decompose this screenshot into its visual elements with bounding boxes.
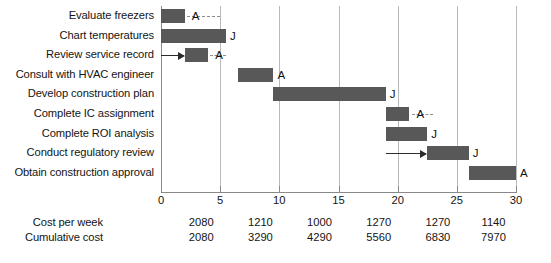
dependency-arrow <box>386 153 426 154</box>
task-label: Conduct regulatory review <box>27 143 154 163</box>
gantt-chart: Evaluate freezersChart temperaturesRevie… <box>0 0 551 263</box>
bar-end-marker: J <box>230 29 236 43</box>
gridline <box>398 6 399 192</box>
cost-cell: 2080 <box>189 216 214 228</box>
cost-table: Cost per week208012101000127012701140Cum… <box>0 216 551 250</box>
task-label: Obtain construction approval <box>14 163 154 183</box>
gantt-bar <box>427 146 468 160</box>
gantt-bar <box>185 48 209 62</box>
cost-cell: 6830 <box>425 231 450 243</box>
task-label: Review service record <box>46 45 154 65</box>
axis-tick-label: 0 <box>158 194 164 206</box>
gantt-bar <box>161 9 185 23</box>
bar-end-marker: A <box>277 68 285 82</box>
cost-cell: 1270 <box>425 216 450 228</box>
cost-cell: 5560 <box>366 231 391 243</box>
axis-tick <box>161 186 162 193</box>
cost-cell: 7970 <box>481 231 506 243</box>
slack-marker: A <box>215 48 223 62</box>
gantt-bar <box>469 166 516 180</box>
cost-cell: 4290 <box>307 231 332 243</box>
task-label: Complete ROI analysis <box>42 124 154 144</box>
gantt-bar <box>386 127 427 141</box>
gantt-bar <box>386 107 410 121</box>
gridline <box>516 6 517 192</box>
task-label: Complete IC assignment <box>34 104 154 124</box>
cost-cell: 1140 <box>481 216 505 228</box>
task-label: Chart temperatures <box>59 26 154 46</box>
cost-cell: 3290 <box>248 231 273 243</box>
bar-end-marker: J <box>473 146 479 160</box>
cost-row-label: Cumulative cost <box>25 231 103 243</box>
axis-tick <box>220 186 221 193</box>
axis-tick-label: 15 <box>332 194 344 206</box>
cost-row-label: Cost per week <box>33 216 103 228</box>
gantt-bar <box>161 29 226 43</box>
axis-tick-label: 5 <box>217 194 223 206</box>
cost-cell: 1270 <box>366 216 391 228</box>
gridline <box>457 6 458 192</box>
bar-end-marker: A <box>520 166 528 180</box>
cost-cell: 1210 <box>248 216 273 228</box>
cost-cell: 2080 <box>189 231 214 243</box>
axis-tick-label: 20 <box>391 194 403 206</box>
gantt-plot-area: AJAAJAJJA <box>161 6 516 192</box>
task-label: Consult with HVAC engineer <box>16 65 154 85</box>
axis-tick <box>398 186 399 193</box>
axis-tick <box>339 186 340 193</box>
bar-end-marker: J <box>390 87 396 101</box>
gantt-bar <box>273 87 385 101</box>
axis-tick <box>457 186 458 193</box>
slack-marker: A <box>192 9 200 23</box>
axis-tick <box>516 186 517 193</box>
task-label: Evaluate freezers <box>69 6 154 26</box>
dependency-arrow <box>161 55 184 56</box>
gantt-bar <box>238 68 274 82</box>
axis-tick-label: 25 <box>451 194 463 206</box>
axis-tick <box>279 186 280 193</box>
axis-tick-label: 10 <box>273 194 285 206</box>
slack-marker: A <box>417 107 425 121</box>
bar-end-marker: J <box>431 127 437 141</box>
axis-tick-label: 30 <box>510 194 522 206</box>
cost-cell: 1000 <box>307 216 332 228</box>
task-label-column: Evaluate freezersChart temperaturesRevie… <box>0 6 158 182</box>
task-label: Develop construction plan <box>28 84 154 104</box>
